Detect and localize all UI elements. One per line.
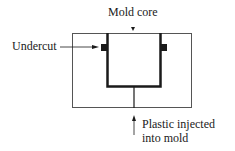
mold-core-label: Mold core — [108, 6, 158, 19]
plastic-injected-label-line2: into mold — [142, 132, 188, 145]
mold-core-arrowhead-icon — [131, 27, 135, 31]
core-cavity-walls — [108, 33, 161, 87]
undercut-left — [101, 44, 107, 51]
undercut-arrowhead-icon — [92, 45, 99, 49]
undercut-right — [161, 44, 167, 51]
plastic-injected-label-line1: Plastic injected — [142, 118, 215, 131]
injection-arrowhead-icon — [132, 115, 136, 121]
outer-mold-box — [73, 34, 192, 108]
undercut-label: Undercut — [12, 40, 57, 53]
